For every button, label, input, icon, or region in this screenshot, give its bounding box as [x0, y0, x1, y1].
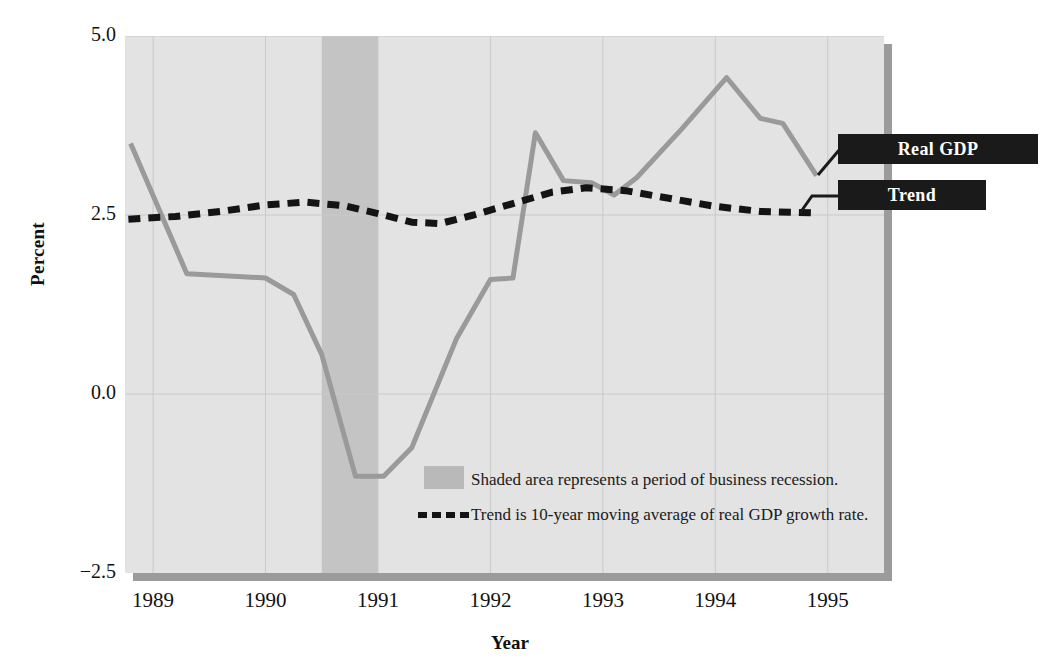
callout-label-real-gdp: Real GDP: [838, 134, 1038, 164]
x-tick-1994: 1994: [660, 588, 770, 613]
recession-legend-text: Shaded area represents a period of busin…: [471, 470, 838, 490]
plot-area: [125, 36, 884, 573]
recession-band: [322, 36, 378, 573]
recession-band-group: [322, 36, 378, 573]
plot-svg: [125, 36, 884, 573]
series-line-group: [128, 78, 816, 477]
recession-legend-swatch: [424, 466, 464, 489]
y-tick-5: 5.0: [16, 23, 116, 46]
trend-legend-text: Trend is 10-year moving average of real …: [471, 505, 868, 525]
y-axis-label: Percent: [27, 246, 49, 286]
gridline-group: [125, 36, 884, 573]
series-line-trend: [128, 188, 811, 224]
y-tick-neg2_5: −2.5: [16, 560, 116, 583]
x-axis-label: Year: [420, 632, 600, 654]
gdp-growth-chart-figure: 5.0 2.5 0.0 −2.5 1989 1990 1991 1992 199…: [0, 0, 1046, 669]
x-tick-1995: 1995: [773, 588, 883, 613]
x-tick-1991: 1991: [323, 588, 433, 613]
callout-label-trend: Trend: [838, 180, 986, 210]
x-tick-1992: 1992: [435, 588, 545, 613]
x-tick-1993: 1993: [548, 588, 658, 613]
y-axis-tick-group: 5.0 2.5 0.0 −2.5: [8, 0, 116, 669]
y-tick-0: 0.0: [16, 381, 116, 404]
x-tick-1989: 1989: [98, 588, 208, 613]
x-tick-1990: 1990: [211, 588, 321, 613]
trend-legend-dash-sample: [418, 512, 470, 518]
series-line-real-gdp: [131, 78, 817, 477]
